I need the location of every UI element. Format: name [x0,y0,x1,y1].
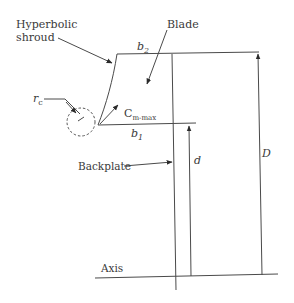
rc-arrow [66,102,76,113]
label-backplate: Backplate [78,160,131,172]
backplate-pointer-arrow [124,162,172,166]
label-b1: b1 [131,127,143,142]
shroud-curve [98,54,117,125]
label-D: D [261,147,271,160]
label-d: d [194,154,201,167]
label-rc: rc [33,92,43,107]
label-axis: Axis [100,262,123,274]
label-b2: b2 [137,40,149,55]
label-blade: Blade [167,18,199,31]
b1-edge [98,123,196,125]
cm-max-arrow [100,105,118,124]
label-hyperbolic: Hyperbolic [16,18,77,31]
fillet-radius-circle [67,108,95,136]
rc-tick [78,117,84,121]
shroud-pointer-arrow [58,38,112,63]
blade-pointer-arrow [147,30,167,84]
backplate-line [172,54,176,290]
label-cm-max: Cm-max [124,107,156,122]
d-dimension-arrow [189,126,191,276]
impeller-diagram: Hyperbolic shroud Blade b2 b1 rc Cm-max … [0,0,294,303]
axis-line [95,274,278,278]
D-dimension-arrow [258,54,262,275]
label-shroud: shroud [16,31,55,44]
